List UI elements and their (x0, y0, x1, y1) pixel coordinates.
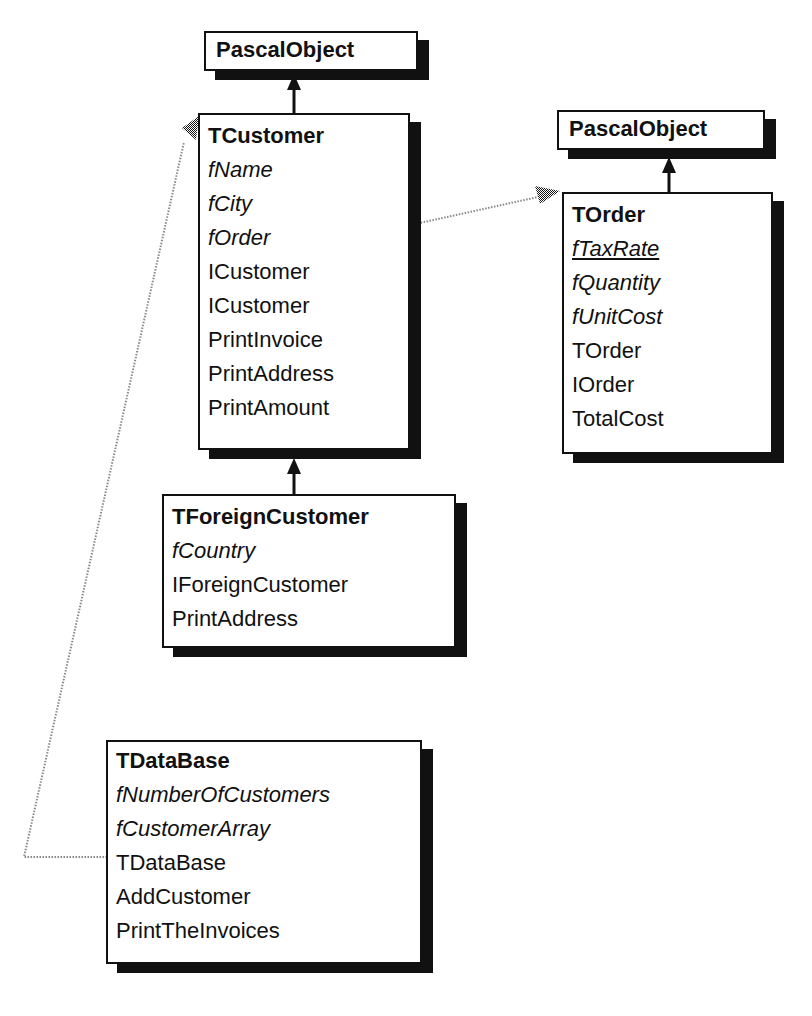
method-torder: TOrder (564, 334, 771, 368)
class-name: TCustomer (200, 115, 408, 153)
field-fname: fName (200, 153, 408, 187)
method-printtheinvoices: PrintTheInvoices (108, 914, 420, 948)
class-box-tforeigncustomer: TForeignCustomer fCountry IForeignCustom… (162, 494, 456, 648)
inheritance-arrow-torder-to-pascalobject (662, 157, 676, 192)
method-addcustomer: AddCustomer (108, 880, 420, 914)
field-fcountry: fCountry (164, 534, 454, 568)
field-fcustomerarray: fCustomerArray (108, 812, 420, 846)
method-printaddress: PrintAddress (164, 602, 454, 636)
class-box-torder: TOrder fTaxRate fQuantity fUnitCost TOrd… (562, 192, 773, 454)
method-printinvoice: PrintInvoice (200, 323, 408, 357)
class-box-tdatabase: TDataBase fNumberOfCustomers fCustomerAr… (106, 740, 422, 964)
method-iorder: IOrder (564, 368, 771, 402)
class-box-pascalobject-right: PascalObject (557, 110, 765, 150)
method-printaddress: PrintAddress (200, 357, 408, 391)
class-box-pascalobject-top: PascalObject (204, 31, 418, 71)
class-name: TForeignCustomer (164, 496, 454, 534)
field-forder: fOrder (200, 221, 408, 255)
class-field-ftaxrate: fTaxRate (564, 232, 771, 266)
field-fnumberofcustomers: fNumberOfCustomers (108, 778, 420, 812)
method-iforeigncustomer: IForeignCustomer (164, 568, 454, 602)
method-totalcost: TotalCost (564, 402, 771, 436)
method-printamount: PrintAmount (200, 391, 408, 425)
field-fquantity: fQuantity (564, 266, 771, 300)
method-icustomer-2: ICustomer (200, 289, 408, 323)
class-name: TDataBase (108, 742, 420, 778)
inheritance-arrow-tcustomer-to-pascalobject (287, 74, 301, 113)
method-icustomer: ICustomer (200, 255, 408, 289)
field-fcity: fCity (200, 187, 408, 221)
field-funitcost: fUnitCost (564, 300, 771, 334)
class-box-tcustomer: TCustomer fName fCity fOrder ICustomer I… (198, 113, 410, 450)
class-name: PascalObject (559, 112, 763, 146)
inheritance-arrow-tforeigncustomer-to-tcustomer (287, 458, 301, 494)
class-name: TOrder (564, 194, 771, 232)
class-name: PascalObject (206, 33, 416, 67)
method-tdatabase: TDataBase (108, 846, 420, 880)
